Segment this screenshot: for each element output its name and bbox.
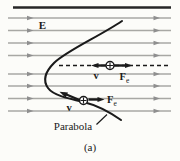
- force-label-top-sub: e: [126, 75, 129, 84]
- field-direction-arrowhead: [27, 16, 34, 21]
- field-direction-arrowhead: [154, 41, 161, 46]
- force-arrow-bottom: [89, 97, 105, 102]
- field-direction-arrowhead: [27, 53, 34, 58]
- field-direction-arrowhead: [27, 84, 34, 89]
- force-label-bottom: Fe: [107, 94, 117, 105]
- force-arrow-top: [113, 63, 133, 68]
- figure-caption: (a): [84, 142, 96, 153]
- field-direction-arrowhead: [27, 28, 34, 33]
- field-label: E: [39, 19, 46, 30]
- field-direction-arrowhead: [154, 96, 161, 101]
- field-direction-arrowhead: [154, 109, 161, 114]
- field-direction-arrowhead: [154, 28, 161, 33]
- positive-charge-icon-top: [106, 62, 114, 70]
- field-direction-arrowhead: [154, 53, 161, 58]
- parabola-pointer-line: [97, 115, 108, 125]
- field-direction-arrowhead: [27, 109, 34, 114]
- field-direction-arrowhead: [154, 16, 161, 21]
- force-label-top: Fe: [120, 71, 130, 82]
- positive-charge-icon-bottom: [80, 97, 88, 105]
- velocity-label-bottom: v: [66, 102, 71, 113]
- field-direction-arrowhead: [27, 96, 34, 101]
- field-direction-arrowhead: [27, 72, 34, 77]
- velocity-label-top: v: [93, 71, 98, 82]
- curve-label: Parabola: [54, 120, 92, 131]
- force-label-bottom-sub: e: [114, 98, 117, 107]
- field-direction-arrowhead: [154, 84, 161, 89]
- velocity-arrow-top: [91, 63, 107, 68]
- physics-diagram: [0, 0, 180, 161]
- field-direction-arrowhead: [27, 41, 34, 46]
- figure-canvas: E v Fe v Fe Parabola (a): [0, 0, 180, 161]
- field-direction-arrowhead: [154, 72, 161, 77]
